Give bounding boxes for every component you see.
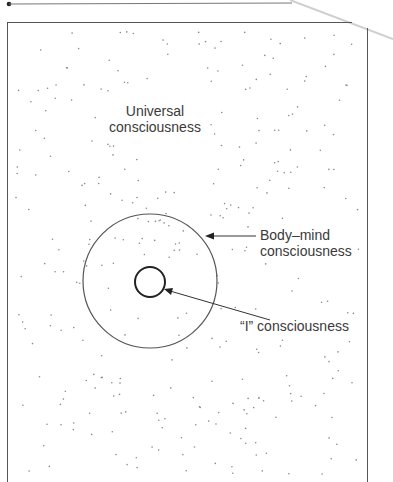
i-arrow (164, 288, 270, 320)
universal-label-line2: consciousness (103, 119, 207, 135)
body-mind-arrow (205, 233, 256, 240)
universal-label-line1: Universal (103, 103, 207, 119)
top-rule (9, 3, 292, 4)
universal-consciousness-label: Universal consciousness (103, 103, 207, 135)
i-circle (135, 267, 165, 297)
body-mind-label-line2: consciousness (260, 243, 352, 259)
body-mind-circle (83, 214, 217, 348)
page-edge-diagonal (290, 0, 393, 39)
body-mind-label-line1: Body–mind (260, 227, 352, 243)
body-mind-consciousness-label: Body–mind consciousness (260, 227, 352, 259)
i-consciousness-label: “I” consciousness (240, 318, 349, 334)
